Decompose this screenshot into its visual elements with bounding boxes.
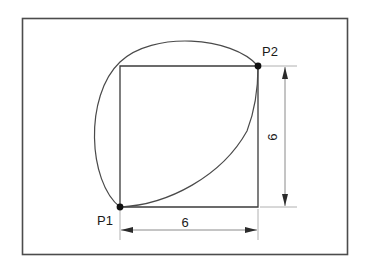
point-p1-label: P1 [97,213,113,228]
point-p2-dot [255,63,262,70]
vertical-dimension-label: 6 [265,133,280,140]
geometry-diagram: P1 P2 6 6 [0,0,370,271]
horizontal-dimension-label: 6 [181,215,188,230]
point-p2-label: P2 [262,44,278,59]
diagram-canvas: P1 P2 6 6 [0,0,370,271]
point-p1-dot [117,204,124,211]
